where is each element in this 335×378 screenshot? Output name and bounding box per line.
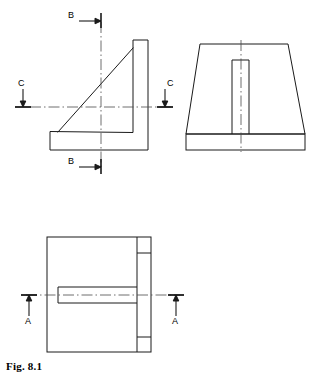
section-label-c-left: C xyxy=(18,79,25,88)
section-label-b-top: B xyxy=(68,11,74,20)
figure-caption: Fig. 8.1 xyxy=(6,360,42,372)
engineering-drawing-canvas xyxy=(0,0,335,378)
section-label-a-left: A xyxy=(25,317,31,326)
drawing-background xyxy=(0,0,335,378)
section-label-a-right: A xyxy=(172,317,178,326)
section-label-c-right: C xyxy=(167,79,174,88)
section-label-b-bottom: B xyxy=(68,157,74,166)
